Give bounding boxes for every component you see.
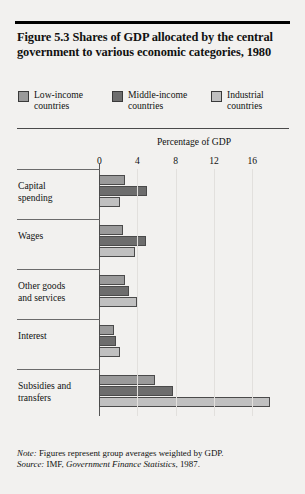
bar-group	[99, 375, 270, 408]
note-line: Note: Figures represent group averages w…	[17, 448, 292, 459]
category-label: Interest	[18, 330, 96, 342]
row-separator	[17, 219, 100, 220]
chart-legend: Low-income countries Middle-income count…	[17, 89, 289, 119]
bar	[99, 336, 116, 346]
x-tick-label-12: 12	[209, 155, 219, 166]
bar	[99, 286, 129, 296]
x-axis-ticks: 0481216	[17, 155, 289, 169]
row-separator	[17, 369, 100, 370]
plot-area: 0481216 Capital spendingWagesOther goods…	[17, 155, 289, 425]
bar-row: Other goods and services	[17, 269, 289, 319]
source-publication: Government Finance Statistics	[66, 459, 175, 469]
legend-label-middle-income: Middle-income countries	[128, 89, 187, 112]
row-separator	[17, 169, 100, 170]
bar-row: Capital spending	[17, 169, 289, 219]
bar	[99, 297, 137, 307]
source-line: Source: IMF, Government Finance Statisti…	[17, 459, 292, 470]
category-label: Wages	[18, 230, 96, 242]
gridline-8	[176, 169, 177, 416]
bar	[99, 236, 146, 246]
bar-group	[99, 275, 137, 308]
bar-row: Interest	[17, 319, 289, 369]
legend-swatch-low-income	[18, 91, 29, 102]
gridline-16	[252, 169, 253, 416]
bar	[99, 225, 123, 235]
bar	[99, 275, 125, 285]
legend-label-industrial: Industrial countries	[227, 89, 264, 112]
source-label: Source:	[17, 459, 44, 469]
legend-separator-rule	[17, 128, 289, 129]
legend-label-low-income: Low-income countries	[34, 89, 83, 112]
category-label: Subsidies and transfers	[18, 380, 96, 403]
bar	[99, 197, 120, 207]
gridline-4	[137, 169, 138, 416]
note-text: Figures represent group averages weighte…	[37, 448, 224, 458]
category-label: Other goods and services	[18, 280, 96, 303]
bar-row: Wages	[17, 219, 289, 269]
bar-group	[99, 175, 147, 208]
bar	[99, 375, 155, 385]
bar-group	[99, 325, 120, 358]
bar	[99, 386, 173, 396]
note-label: Note:	[17, 448, 37, 458]
x-tick-label-8: 8	[173, 155, 178, 166]
x-tick-label-16: 16	[247, 155, 257, 166]
source-text-pre: IMF,	[44, 459, 66, 469]
bar	[99, 325, 114, 335]
bar	[99, 175, 125, 185]
figure-footnotes: Note: Figures represent group averages w…	[17, 448, 292, 471]
bar-group	[99, 225, 146, 258]
legend-swatch-industrial	[211, 91, 222, 102]
bar-rows: Capital spendingWagesOther goods and ser…	[17, 169, 289, 419]
row-separator	[17, 319, 100, 320]
legend-item-middle-income: Middle-income countries	[112, 89, 187, 112]
figure-title: Figure 5.3 Shares of GDP allocated by th…	[17, 30, 279, 60]
source-text-post: , 1987.	[175, 459, 199, 469]
row-separator	[17, 269, 100, 270]
bar-row: Subsidies and transfers	[17, 369, 289, 419]
bar	[99, 247, 135, 257]
gridline-12	[214, 169, 215, 416]
bar	[99, 397, 270, 407]
category-label: Capital spending	[18, 180, 96, 203]
x-axis-title: Percentage of GDP	[99, 136, 289, 147]
legend-item-industrial: Industrial countries	[211, 89, 264, 112]
bar	[99, 347, 120, 357]
x-tick-label-4: 4	[135, 155, 140, 166]
figure-container: Figure 5.3 Shares of GDP allocated by th…	[0, 0, 305, 494]
legend-swatch-middle-income	[112, 91, 123, 102]
legend-item-low-income: Low-income countries	[18, 89, 83, 112]
bar	[99, 186, 147, 196]
top-rule	[15, 21, 290, 24]
